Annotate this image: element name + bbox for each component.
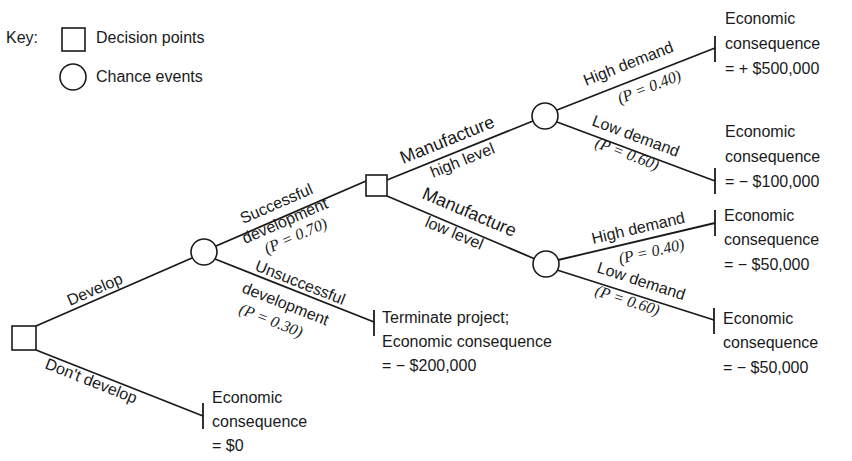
outcome-line: Economic consequence xyxy=(382,333,552,350)
chance-event-icon xyxy=(60,64,86,90)
outcome-line: Economic xyxy=(723,310,793,327)
outcome-terminate: Terminate project; Economic consequence … xyxy=(382,309,552,374)
outcome-line: consequence xyxy=(212,413,307,430)
manufacture-decision-node xyxy=(366,175,387,196)
outcome-value: = − $50,000 xyxy=(724,256,810,273)
outcome-value: = $0 xyxy=(212,437,244,454)
outcome-high-low: Economic consequence = − $100,000 xyxy=(725,123,820,190)
low-level-chance-node xyxy=(533,251,559,277)
legend-decision-label: Decision points xyxy=(96,29,205,46)
legend: Key: Decision points Chance events xyxy=(6,28,205,90)
high-demand-probability: (P = 0.40) xyxy=(617,235,686,268)
outcome-line: consequence xyxy=(724,231,819,248)
branch-labels: Develop Don't develop Successful develop… xyxy=(43,38,688,407)
outcome-value: = + $500,000 xyxy=(725,60,819,77)
legend-chance-label: Chance events xyxy=(96,68,203,85)
outcome-value: = − $50,000 xyxy=(723,359,809,376)
legend-title: Key: xyxy=(6,29,38,46)
development-chance-node xyxy=(191,239,217,265)
outcome-value: = − $100,000 xyxy=(725,173,819,190)
outcome-low-high: Economic consequence = − $50,000 xyxy=(724,207,819,273)
outcome-line: Economic xyxy=(212,389,282,406)
outcome-low-low: Economic consequence = − $50,000 xyxy=(723,310,818,376)
high-level-chance-node xyxy=(532,103,558,129)
decision-point-icon xyxy=(62,28,85,51)
outcome-dont-develop: Economic consequence = $0 xyxy=(212,389,307,454)
outcome-line: Economic xyxy=(724,207,794,224)
outcome-line: consequence xyxy=(725,148,820,165)
outcome-line: Economic xyxy=(725,10,795,27)
outcome-value: = − $200,000 xyxy=(382,357,476,374)
outcome-high-high: Economic consequence = + $500,000 xyxy=(725,10,820,77)
dont-develop-label: Don't develop xyxy=(43,355,140,407)
root-decision-node xyxy=(12,326,36,350)
outcome-line: consequence xyxy=(725,35,820,52)
outcome-line: Economic xyxy=(725,123,795,140)
edge-develop xyxy=(36,258,192,326)
outcome-line: Terminate project; xyxy=(382,309,509,326)
outcome-line: consequence xyxy=(723,334,818,351)
decision-tree-diagram: Key: Decision points Chance events xyxy=(0,0,852,461)
develop-label: Develop xyxy=(64,270,125,309)
